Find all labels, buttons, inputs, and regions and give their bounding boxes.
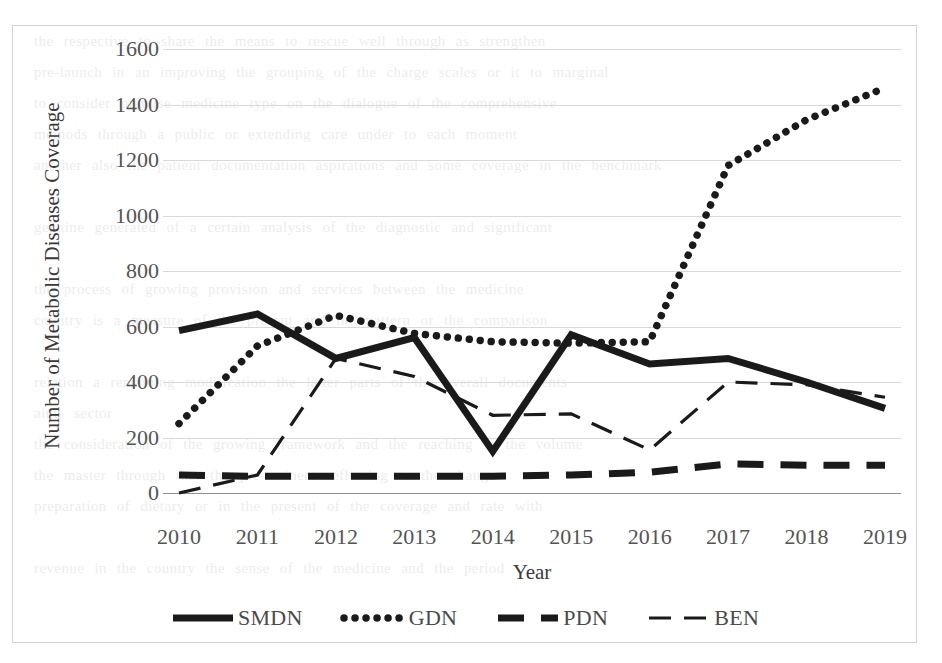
y-tick-label: 0 <box>97 480 159 506</box>
legend-label: PDN <box>563 605 608 631</box>
y-tick-label: 1200 <box>97 147 159 173</box>
legend-item-smdn[interactable]: SMDN <box>172 605 303 631</box>
legend-swatch-pdn-icon <box>497 611 559 625</box>
legend-item-ben[interactable]: BEN <box>648 605 759 631</box>
y-tick-label: 1400 <box>97 92 159 118</box>
legend-swatch-smdn-icon <box>172 611 234 625</box>
chart-legend: SMDNGDNPDNBEN <box>13 598 918 638</box>
y-tick-label: 400 <box>97 369 159 395</box>
chart-container: Number of Metabolic Diseases Coverage 02… <box>12 25 917 643</box>
x-tick-label: 2016 <box>605 524 695 550</box>
y-tick-label: 1600 <box>97 36 159 62</box>
x-tick-label: 2012 <box>291 524 381 550</box>
legend-swatch-ben-icon <box>648 611 710 625</box>
y-axis-title: Number of Metabolic Diseases Coverage <box>40 41 65 511</box>
legend-label: BEN <box>714 605 759 631</box>
x-tick-label: 2014 <box>448 524 538 550</box>
x-tick-label: 2010 <box>134 524 224 550</box>
y-tick-label: 200 <box>97 425 159 451</box>
x-tick-label: 2018 <box>762 524 852 550</box>
x-tick-label: 2013 <box>369 524 459 550</box>
plot-wrapper: Number of Metabolic Diseases Coverage 02… <box>13 26 918 644</box>
legend-item-pdn[interactable]: PDN <box>497 605 608 631</box>
x-tick-label: 2019 <box>840 524 930 550</box>
legend-swatch-gdn-icon <box>343 611 405 625</box>
series-line-pdn <box>179 464 885 476</box>
legend-label: GDN <box>409 605 458 631</box>
y-tick-label: 800 <box>97 258 159 284</box>
legend-label: SMDN <box>238 605 303 631</box>
y-axis-tick-labels: 02004006008001000120014001600 <box>97 26 159 644</box>
x-tick-label: 2015 <box>526 524 616 550</box>
x-axis-title: Year <box>163 560 901 585</box>
y-tick-label: 600 <box>97 314 159 340</box>
legend-item-gdn[interactable]: GDN <box>343 605 458 631</box>
y-tick-label: 1000 <box>97 203 159 229</box>
x-axis-tick-labels: 2010201120122013201420152016201720182019 <box>163 524 901 558</box>
x-tick-label: 2017 <box>683 524 773 550</box>
x-tick-label: 2011 <box>212 524 302 550</box>
